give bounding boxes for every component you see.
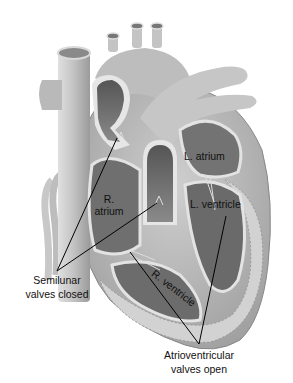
label-left-ventricle: L. ventricle bbox=[190, 198, 241, 210]
superior-vena-cava bbox=[58, 52, 90, 302]
label-atrioventricular-line1: Atrioventricular bbox=[155, 349, 243, 361]
label-right-atrium-line1: R. bbox=[94, 193, 124, 205]
label-semilunar-line1: Semilunar bbox=[15, 274, 99, 286]
label-semilunar-line2: valves closed bbox=[15, 288, 99, 300]
label-left-atrium: L. atrium bbox=[184, 150, 225, 162]
heart-illustration bbox=[0, 0, 293, 383]
label-right-atrium-line2: atrium bbox=[92, 205, 126, 217]
label-atrioventricular-line2: valves open bbox=[155, 363, 243, 375]
heart-diagram: L. atrium R. atrium L. ventricle R. vent… bbox=[0, 0, 293, 383]
